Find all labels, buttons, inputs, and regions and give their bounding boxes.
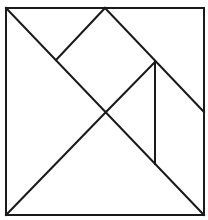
tangram-diagram xyxy=(0,0,208,220)
anti-diagonal-lower-line xyxy=(6,112,106,215)
top-mid-to-left-diagonal-line xyxy=(56,8,105,60)
center-to-right-diagonal-line xyxy=(106,62,155,112)
